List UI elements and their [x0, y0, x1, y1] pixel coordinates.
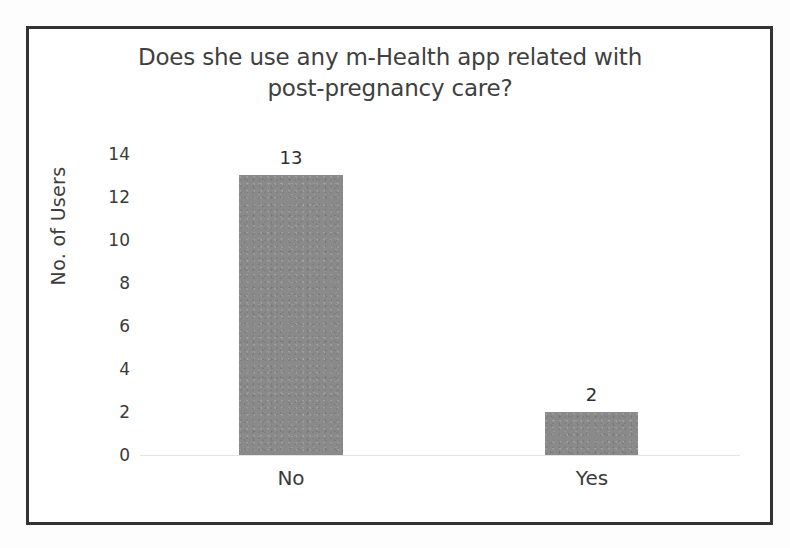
bar-value-no: 13: [239, 147, 343, 168]
x-tick-label-yes: Yes: [502, 466, 682, 490]
x-tick-label-no: No: [201, 466, 381, 490]
chart-figure: Does she use any m-Health app related wi…: [0, 0, 790, 548]
bar-group-no[interactable]: 13: [239, 175, 343, 455]
y-tick-14: 14: [78, 144, 130, 164]
y-tick-8: 8: [78, 273, 130, 293]
y-tick-12: 12: [78, 187, 130, 207]
bar-no[interactable]: [239, 175, 343, 455]
bar-value-yes: 2: [545, 384, 638, 405]
y-tick-2: 2: [78, 402, 130, 422]
bar-group-yes[interactable]: 2: [545, 412, 638, 455]
y-tick-6: 6: [78, 316, 130, 336]
y-tick-10: 10: [78, 230, 130, 250]
y-tick-4: 4: [78, 359, 130, 379]
bar-yes[interactable]: [545, 412, 638, 455]
y-tick-0: 0: [78, 445, 130, 465]
x-axis-baseline: [140, 455, 740, 456]
